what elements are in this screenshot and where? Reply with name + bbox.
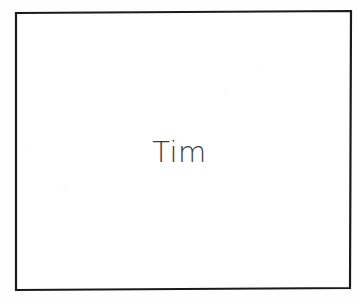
- page-canvas: Tim: [0, 0, 359, 305]
- rectangle-label: Tim: [0, 132, 359, 172]
